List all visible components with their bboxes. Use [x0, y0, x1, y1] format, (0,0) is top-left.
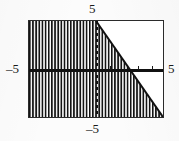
y-axis-max-label: 5 — [89, 2, 96, 15]
plot-frame — [28, 20, 164, 118]
x-axis-tick — [138, 66, 139, 70]
y-axis — [96, 21, 98, 117]
x-axis-tick — [110, 66, 111, 70]
x-axis-tick — [124, 66, 125, 70]
graph-screenshot: 5 –5 5 –5 — [0, 0, 179, 141]
x-axis-tick — [152, 66, 153, 70]
x-axis-min-label: –5 — [6, 62, 19, 75]
y-axis-min-label: –5 — [86, 122, 99, 135]
x-axis-max-label: 5 — [168, 62, 175, 75]
